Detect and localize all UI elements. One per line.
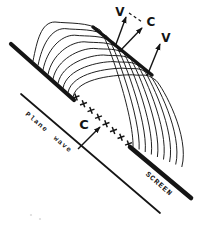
source-mark-3 — [95, 114, 102, 121]
arrow-to-v-right — [147, 44, 160, 76]
scan-speck-1 — [39, 218, 41, 220]
source-mark-4 — [103, 120, 110, 127]
label-c-top: C — [147, 16, 156, 28]
label-v-top: V — [115, 6, 124, 18]
source-mark-5 — [110, 127, 117, 134]
arrow-to-c-top — [119, 28, 142, 52]
v-c-dashed-leader — [129, 13, 142, 22]
scan-speck-0 — [30, 214, 32, 216]
source-mark-6 — [118, 134, 125, 141]
barrier-line — [11, 44, 74, 100]
figure-huygens-wavelets: V C V C Plane wave SCREEN — [0, 0, 206, 231]
source-mark-1 — [80, 100, 87, 107]
arrow-to-v-top — [115, 17, 126, 47]
wavelet-arc-4 — [53, 48, 158, 157]
label-c-mid: C — [79, 118, 89, 131]
label-v-right: V — [161, 32, 170, 44]
source-mark-2 — [88, 107, 95, 114]
